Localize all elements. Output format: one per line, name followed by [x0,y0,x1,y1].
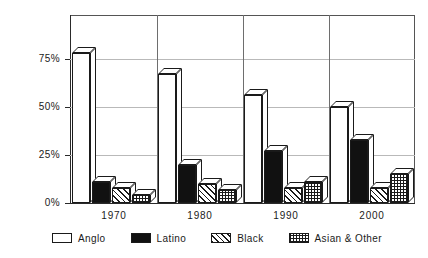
legend-item-black[interactable]: Black [211,233,263,244]
bar-latino-1980 [178,165,196,203]
bar-group [243,15,329,203]
bar-black-1980 [198,184,216,203]
x-tick-label-1970: 1970 [74,210,154,221]
legend-label: Anglo [78,233,106,244]
legend-swatch-icon [131,233,151,243]
bar-anglo-1970 [72,53,90,203]
legend-label: Black [237,233,263,244]
y-tick-mark [65,59,70,60]
y-tick-label: 25% [20,150,60,160]
bar-black-1990 [284,188,302,203]
bar-face [158,74,176,203]
chart-legend: AngloLatinoBlackAsian & Other [52,229,382,247]
bar-asian-other-1990 [304,182,322,203]
bar-face [390,174,408,203]
legend-label: Latino [157,233,187,244]
legend-item-asian-other[interactable]: Asian & Other [289,233,382,244]
bar-face [370,188,388,203]
x-tick-label-1990: 1990 [246,210,326,221]
bar-face [264,151,282,203]
bar-group [157,15,243,203]
bar-latino-2000 [350,140,368,203]
legend-swatch-icon [52,233,72,243]
bar-latino-1970 [92,182,110,203]
plot-area [71,15,415,203]
bar-anglo-1990 [244,95,262,203]
y-tick-mark [65,155,70,156]
bar-group [71,15,157,203]
y-tick-mark [65,203,70,204]
bar-face [330,107,348,203]
x-axis-line [70,203,415,204]
bar-anglo-1980 [158,74,176,203]
bar-face [284,188,302,203]
legend-swatch-icon [211,233,231,243]
y-tick-mark [65,107,70,108]
legend-swatch-icon [289,233,309,243]
bar-side-face [408,168,414,203]
bar-face [92,182,110,203]
bar-face [132,195,150,203]
legend-label: Asian & Other [315,233,382,244]
x-tick-label-1980: 1980 [160,210,240,221]
bar-face [112,188,130,203]
bar-anglo-2000 [330,107,348,203]
bar-asian-other-1980 [218,190,236,203]
legend-item-anglo[interactable]: Anglo [52,233,106,244]
bar-black-1970 [112,188,130,203]
bar-face [350,140,368,203]
bar-face [304,182,322,203]
bar-chart: 0%25%50%75% 1970198019902000 AngloLatino… [0,0,428,258]
bar-face [244,95,262,203]
bar-face [178,165,196,203]
bar-face [198,184,216,203]
bar-asian-other-2000 [390,174,408,203]
legend-item-latino[interactable]: Latino [131,233,187,244]
bar-black-2000 [370,188,388,203]
bar-face [72,53,90,203]
x-tick-label-2000: 2000 [332,210,412,221]
bar-latino-1990 [264,151,282,203]
y-tick-label: 0% [20,198,60,208]
y-tick-label: 50% [20,102,60,112]
bar-asian-other-1970 [132,195,150,203]
y-axis-labels: 0%25%50%75% [15,0,60,258]
bar-face [218,190,236,203]
bar-group [329,15,415,203]
y-tick-label: 75% [20,54,60,64]
